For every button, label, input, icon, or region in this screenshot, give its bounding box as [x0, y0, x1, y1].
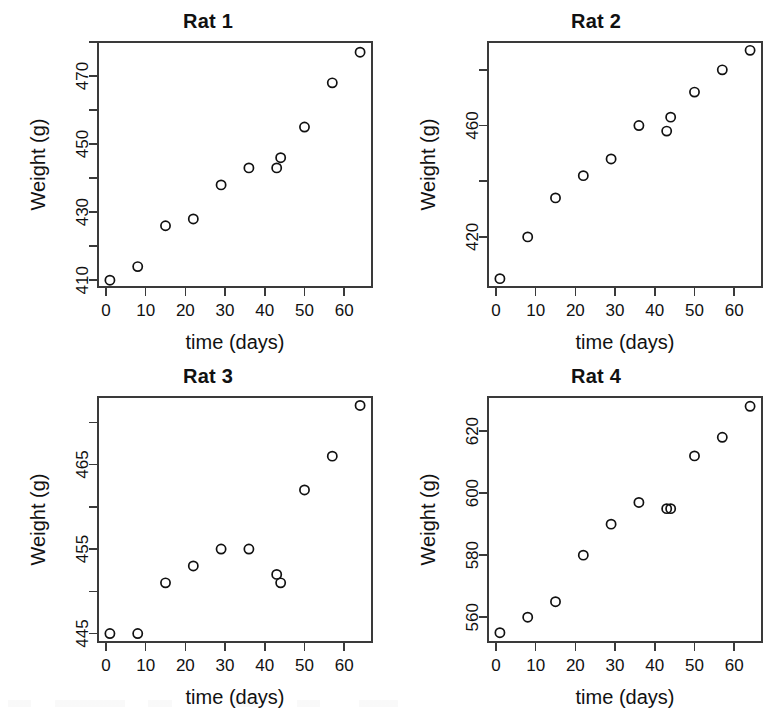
data-point [495, 274, 504, 283]
x-tick-label: 30 [606, 301, 625, 320]
data-point [217, 180, 226, 189]
x-axis-title: time (days) [576, 686, 675, 708]
plot-box-frame [98, 397, 372, 642]
x-tick-label: 60 [725, 656, 744, 675]
panel-rat-3: Rat 3 0102030405060445455465time (days)W… [0, 355, 390, 710]
plot-area-rat-4: 0102030405060560580600620time (days)Weig… [390, 355, 780, 710]
data-point [300, 122, 309, 131]
x-tick-label: 0 [491, 301, 500, 320]
y-tick-label: 560 [463, 603, 482, 631]
data-point [579, 551, 588, 560]
data-point [276, 153, 285, 162]
x-tick-label: 30 [216, 301, 235, 320]
data-point [495, 628, 504, 637]
data-point [634, 498, 643, 507]
data-point [244, 163, 253, 172]
data-point [690, 88, 699, 97]
panel-rat-1: Rat 1 0102030405060410430450470time (day… [0, 0, 390, 355]
data-point [690, 451, 699, 460]
x-tick-label: 40 [255, 656, 274, 675]
data-point [133, 262, 142, 271]
x-tick-label: 30 [216, 656, 235, 675]
x-tick-label: 60 [335, 301, 354, 320]
plot-area-rat-1: 0102030405060410430450470time (days)Weig… [0, 0, 390, 355]
data-point [161, 578, 170, 587]
y-tick-label: 460 [463, 111, 482, 139]
data-point [607, 154, 616, 163]
y-axis-title: Weight (g) [27, 474, 49, 566]
x-tick-label: 20 [566, 301, 585, 320]
plot-box-frame [488, 42, 762, 287]
y-axis-title: Weight (g) [417, 119, 439, 211]
data-point [276, 578, 285, 587]
data-point [355, 401, 364, 410]
data-point [662, 126, 671, 135]
x-tick-label: 60 [725, 301, 744, 320]
data-point [718, 433, 727, 442]
y-tick-label: 600 [463, 479, 482, 507]
data-point [355, 48, 364, 57]
x-tick-label: 50 [295, 656, 314, 675]
x-tick-label: 30 [606, 656, 625, 675]
data-point [551, 193, 560, 202]
y-tick-label: 445 [73, 619, 92, 647]
x-tick-label: 20 [566, 656, 585, 675]
plot-area-rat-3: 0102030405060445455465time (days)Weight … [0, 355, 390, 710]
x-tick-label: 0 [101, 301, 110, 320]
panel-rat-4: Rat 4 0102030405060560580600620time (day… [390, 355, 780, 710]
x-tick-label: 40 [255, 301, 274, 320]
y-tick-label: 470 [73, 62, 92, 90]
x-tick-label: 0 [491, 656, 500, 675]
data-point [328, 78, 337, 87]
data-point [607, 520, 616, 529]
x-tick-label: 50 [685, 656, 704, 675]
data-point [189, 214, 198, 223]
data-point [523, 232, 532, 241]
data-point [300, 485, 309, 494]
data-point [745, 46, 754, 55]
data-point [272, 163, 281, 172]
x-tick-label: 10 [136, 656, 155, 675]
x-tick-label: 60 [335, 656, 354, 675]
x-tick-label: 40 [645, 656, 664, 675]
data-point [523, 613, 532, 622]
rat-growth-figure: Rat 1 0102030405060410430450470time (day… [0, 0, 780, 711]
x-tick-label: 50 [295, 301, 314, 320]
data-point [133, 629, 142, 638]
x-tick-label: 20 [176, 301, 195, 320]
y-tick-label: 410 [73, 266, 92, 294]
y-tick-label: 620 [463, 417, 482, 445]
data-point [666, 113, 675, 122]
x-tick-label: 10 [526, 301, 545, 320]
data-point [718, 65, 727, 74]
data-point [551, 597, 560, 606]
data-point [217, 544, 226, 553]
data-point [745, 402, 754, 411]
data-point [161, 221, 170, 230]
data-point [189, 561, 198, 570]
y-tick-label: 580 [463, 541, 482, 569]
x-axis-title: time (days) [186, 331, 285, 353]
y-tick-label: 430 [73, 198, 92, 226]
x-tick-label: 20 [176, 656, 195, 675]
x-tick-label: 50 [685, 301, 704, 320]
page-edge-artifact [8, 700, 398, 707]
data-point [244, 544, 253, 553]
y-tick-label: 420 [463, 223, 482, 251]
x-tick-label: 10 [136, 301, 155, 320]
data-point [105, 276, 114, 285]
x-tick-label: 10 [526, 656, 545, 675]
x-tick-label: 0 [101, 656, 110, 675]
y-axis-title: Weight (g) [417, 474, 439, 566]
data-point [579, 171, 588, 180]
x-axis-title: time (days) [576, 331, 675, 353]
y-tick-label: 455 [73, 535, 92, 563]
y-tick-label: 450 [73, 130, 92, 158]
y-axis-title: Weight (g) [27, 119, 49, 211]
y-tick-label: 465 [73, 450, 92, 478]
plot-area-rat-2: 0102030405060420460time (days)Weight (g) [390, 0, 780, 355]
panel-rat-2: Rat 2 0102030405060420460time (days)Weig… [390, 0, 780, 355]
x-tick-label: 40 [645, 301, 664, 320]
data-point [105, 629, 114, 638]
data-point [634, 121, 643, 130]
